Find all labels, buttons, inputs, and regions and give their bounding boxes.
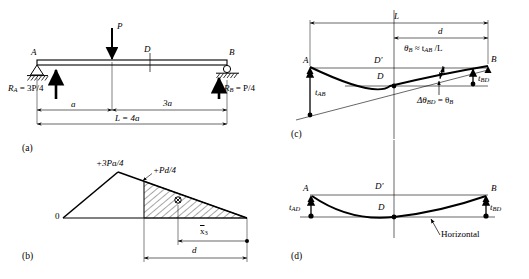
- panel-a-graphics: [27, 28, 239, 124]
- moment-shaded-area: [144, 181, 247, 218]
- deviation-label-tbd-c: tBD: [478, 74, 489, 84]
- delta-theta-bd-label: ΔθBD = θB: [417, 96, 453, 106]
- tangent-point-b-c: [471, 82, 476, 87]
- roller-support-b: [223, 65, 230, 72]
- dim-label-L: L = 4a: [115, 114, 139, 123]
- panel-d-graphics: [300, 140, 495, 238]
- tangent-point-a-d: [308, 213, 313, 218]
- beam-body: [37, 60, 227, 65]
- point-label-b-panel-c: B: [491, 55, 497, 64]
- elastic-curve-d: [312, 196, 486, 218]
- dim-label-a: a: [71, 100, 76, 109]
- moment-peak-label: +3Pa/4: [96, 159, 124, 168]
- point-label-a-panel-d: A: [303, 184, 309, 193]
- point-label-a-panel-c: A: [303, 56, 309, 65]
- moment-origin-label: 0: [55, 212, 60, 221]
- leader-pd4: [143, 174, 152, 181]
- ground-hatch-a: [28, 76, 49, 81]
- point-label-b-panel-d: B: [491, 184, 497, 193]
- centroid-distance-label: x3: [200, 227, 208, 237]
- deviation-label-tbd-d: tBD: [490, 203, 501, 213]
- point-label-d-panel-c: D: [377, 72, 384, 81]
- panel-label-c: (c): [291, 130, 302, 140]
- ground-hatch-b: [217, 73, 238, 78]
- dim-label-c-d: d: [438, 27, 443, 36]
- point-label-dprime-panel-c: D': [374, 56, 382, 65]
- deviation-label-tad: tAD: [289, 203, 300, 213]
- moment-rise: [63, 172, 118, 218]
- dim-dot-xbar3: [245, 239, 249, 243]
- leader-horizontal: [431, 219, 440, 235]
- horizontal-reference-label: Horizontal: [441, 230, 480, 239]
- deviation-label-tab: tAB: [315, 88, 325, 98]
- point-label-b-panel-a: B: [229, 48, 235, 57]
- dim-label-c-L: L: [394, 12, 399, 21]
- panel-label-b: (b): [22, 252, 33, 262]
- reaction-label-b: RB = P/4: [224, 84, 255, 94]
- panel-b-graphics: [63, 172, 249, 262]
- dim-label-3a: 3a: [163, 99, 172, 108]
- tangent-point-b-d: [483, 213, 488, 218]
- tangent-point-a-c: [308, 113, 313, 118]
- point-label-d-panel-d: D: [378, 203, 385, 212]
- point-label-a-panel-a: A: [31, 48, 37, 57]
- beam-deflection-figure: P A B D RA = 3P/4 RB = P/4 a 3a L = 4a (…: [0, 0, 529, 279]
- load-label-p: P: [117, 22, 123, 31]
- point-label-dprime-panel-d: D': [375, 182, 383, 191]
- panel-label-d: (d): [291, 252, 302, 262]
- point-label-d-panel-a: D: [144, 45, 151, 54]
- reaction-label-a: RA = 3P/4: [8, 84, 44, 94]
- moment-step-label: +Pd/4: [153, 166, 176, 175]
- panel-c-graphics: [296, 10, 492, 139]
- theta-b-expression: θB ≈ tAB /L: [404, 44, 443, 54]
- pin-support-a: [31, 65, 44, 75]
- point-d-marker-d: [392, 215, 397, 220]
- panel-label-a: (a): [22, 144, 33, 154]
- dim-label-b-d: d: [192, 246, 197, 255]
- point-d-marker-c: [392, 84, 397, 89]
